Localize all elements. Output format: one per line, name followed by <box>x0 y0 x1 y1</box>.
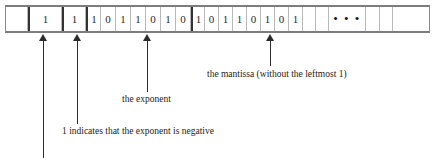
bit-cell-mantissa: 1 <box>233 7 247 31</box>
bit-cell-mantissa: 0 <box>247 7 261 31</box>
arrow-shaft <box>270 39 271 66</box>
bit-cell-mantissa-blank <box>303 7 316 31</box>
bit-field-strip: 11101101010110101• • • <box>5 5 430 33</box>
exponent-sign-arrow <box>73 34 82 124</box>
arrow-shaft <box>77 39 78 124</box>
sign-bit-arrow <box>39 34 48 158</box>
bit-cell-sign: 1 <box>28 7 62 31</box>
bit-cell-exponent: 1 <box>161 7 176 31</box>
bit-cell-mantissa: 1 <box>219 7 233 31</box>
bit-cell-pad <box>6 7 28 31</box>
bit-cell-mantissa-blank <box>380 7 393 31</box>
bit-cell-exponent: 0 <box>146 7 161 31</box>
mantissa-field-arrow <box>266 34 275 66</box>
bit-cell-mantissa-blank <box>316 7 329 31</box>
bit-cell-exp-sign: 1 <box>62 7 86 31</box>
bit-cell-mantissa: 1 <box>261 7 275 31</box>
bit-cell-mantissa-blank <box>366 7 380 31</box>
exponent-field-label: the exponent <box>122 94 171 105</box>
bit-cell-mantissa: 0 <box>275 7 289 31</box>
bit-cell-mantissa: 1 <box>289 7 303 31</box>
arrow-shaft <box>147 39 148 92</box>
exponent-field-arrow <box>143 34 152 92</box>
arrow-shaft <box>43 39 44 158</box>
bit-cell-exponent: 1 <box>131 7 146 31</box>
bit-cell-exponent: 0 <box>176 7 191 31</box>
bit-cell-mantissa-blank <box>393 7 419 31</box>
bit-cell-exponent: 0 <box>101 7 116 31</box>
bit-cell-exponent: 1 <box>86 7 101 31</box>
bit-cell-mantissa: 1 <box>191 7 205 31</box>
bit-cell-exponent: 1 <box>116 7 131 31</box>
ellipsis-icon: • • • <box>333 12 361 25</box>
bit-cell-mantissa: 0 <box>205 7 219 31</box>
mantissa-field-label: the mantissa (without the leftmost 1) <box>207 69 347 80</box>
exponent-sign-label: 1 indicates that the exponent is negativ… <box>62 126 214 137</box>
bit-cell-ellipsis: • • • <box>329 7 366 31</box>
